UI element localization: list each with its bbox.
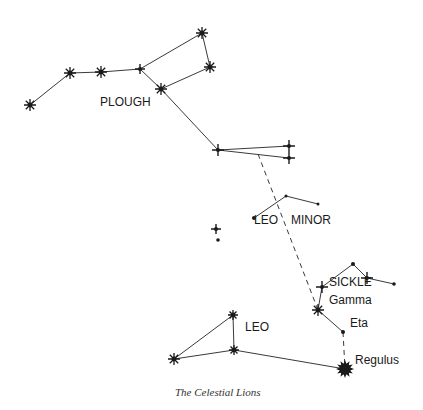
star-icon-p1 [24, 99, 36, 111]
constellation-line [202, 33, 210, 67]
constellation-line [218, 146, 289, 150]
star-icon-p6 [204, 61, 216, 73]
label-leo-minor-2: MINOR [291, 214, 331, 226]
star-icon-p9 [283, 140, 295, 152]
label-leo: LEO [245, 321, 269, 333]
star-icon-p7 [155, 83, 167, 95]
star-icon-p10 [283, 152, 295, 164]
star-icon-lone2 [216, 238, 220, 242]
label-sickle: SICKLE [329, 276, 372, 288]
star-icon-s-upper [316, 281, 328, 293]
constellation-line [30, 73, 70, 105]
pointer-dashed-lines [258, 154, 345, 369]
constellation-line [286, 196, 318, 204]
star-icon-regulus [336, 360, 354, 378]
label-eta: Eta [350, 317, 368, 329]
star-icon-gamma [312, 304, 324, 316]
star-icon-lone1 [211, 224, 221, 234]
star-icon-leo-c [168, 353, 180, 365]
star-chart [0, 0, 423, 410]
constellation-line [161, 89, 218, 150]
constellation-line [140, 33, 202, 69]
constellation-line [174, 350, 234, 359]
star-icon-leo-b [229, 345, 239, 355]
constellation-line [233, 315, 234, 350]
star-icon-eta [341, 330, 345, 334]
constellation-line [234, 350, 345, 369]
star-icon-p3 [95, 66, 107, 78]
constellation-line [161, 67, 210, 89]
label-leo-minor-1: LEO [254, 214, 278, 226]
star-icon-s-end [392, 282, 396, 286]
star-icon-lm3 [317, 203, 320, 206]
stars [24, 27, 396, 378]
star-icon-lm2 [285, 195, 288, 198]
constellation-line [218, 150, 289, 158]
figure-caption: The Celestial Lions [175, 387, 261, 398]
star-icon-p2 [64, 67, 76, 79]
constellation-line [174, 315, 233, 359]
label-regulus: Regulus [355, 354, 399, 366]
star-icon-s-top [351, 262, 355, 266]
label-plough: PLOUGH [100, 96, 151, 108]
label-gamma: Gamma [329, 294, 372, 306]
dashed-pointer-line [258, 154, 318, 310]
star-icon-p5 [196, 27, 208, 39]
constellation-lines [30, 33, 394, 369]
star-icon-leo-a [228, 310, 238, 320]
